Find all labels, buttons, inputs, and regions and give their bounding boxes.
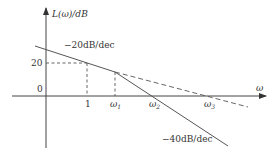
slope-label-20: −20dB/dec <box>64 40 115 50</box>
slope-label-40: −40dB/dec <box>162 134 213 144</box>
bode-plot: L(ω)/dB ω −20dB/dec −40dB/dec 20 0 1 ω1 … <box>0 0 275 158</box>
y-axis-label: L(ω)/dB <box>51 9 88 19</box>
x-axis-label: ω <box>256 83 264 93</box>
y-tick-0: 0 <box>37 84 43 94</box>
y-tick-20: 20 <box>31 58 43 68</box>
asymptote-dashed-extension <box>115 72 248 107</box>
x-tick-1: 1 <box>85 99 91 109</box>
x-tick-omega3: ω3 <box>204 99 215 110</box>
x-tick-omega1: ω1 <box>110 99 121 110</box>
